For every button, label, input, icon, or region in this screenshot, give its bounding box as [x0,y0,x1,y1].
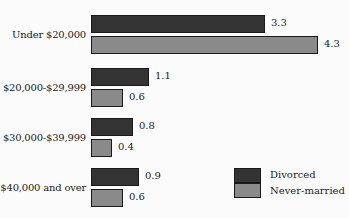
value-label-never-married: 0.6 [129,91,145,103]
category-label: $30,000-$39,999 [3,132,86,144]
value-label-divorced: 0.8 [139,120,155,132]
legend-swatch-divorced [234,168,261,183]
bar-divorced [91,68,149,86]
legend-label-never-married: Never-married [270,185,345,197]
bar-divorced [91,168,139,186]
category-label: $20,000-$29,999 [3,82,86,94]
category-label: $40,000 and over [0,182,86,194]
legend-swatch-never-married [234,183,261,198]
bar-never-married [91,89,123,107]
category-label: Under $20,000 [12,29,86,41]
value-label-divorced: 3.3 [271,17,287,29]
legend-label-divorced: Divorced [270,169,316,181]
value-label-never-married: 0.4 [118,141,134,153]
bar-never-married [91,189,123,207]
bar-divorced [91,15,265,33]
bar-never-married [91,36,318,54]
bar-chart: Under $20,0003.34.3$20,000-$29,9991.10.6… [0,0,349,218]
value-label-never-married: 4.3 [324,38,340,50]
value-label-divorced: 1.1 [155,70,171,82]
value-label-divorced: 0.9 [145,170,161,182]
bar-never-married [91,139,112,157]
value-label-never-married: 0.6 [129,191,145,203]
bar-divorced [91,118,133,136]
